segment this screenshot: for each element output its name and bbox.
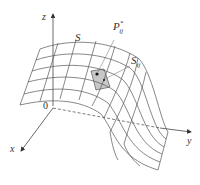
x-axis-label: x: [10, 144, 14, 154]
origin-label: 0: [43, 101, 48, 111]
x-axis: [21, 108, 53, 151]
y-axis: [160, 128, 191, 132]
z-axis-label: z: [42, 12, 46, 22]
sample-point: [95, 72, 98, 75]
y-axis-hidden: [53, 108, 160, 128]
y-axis-label: y: [187, 136, 191, 146]
patch-point: [103, 79, 105, 81]
patch-label-sub: ij: [137, 61, 141, 69]
patch-label: Sij: [131, 55, 140, 69]
patch-sij: [91, 69, 110, 90]
point-label: P*ij: [113, 20, 123, 35]
surface-integral-diagram: z 0 x y S P*ij Sij: [0, 0, 200, 185]
surface-label: S: [75, 32, 81, 43]
patch-leader-line: [105, 66, 130, 79]
point-label-sup: *: [120, 19, 124, 27]
point-label-sub: ij: [119, 27, 123, 35]
diagram-canvas: [0, 0, 200, 185]
